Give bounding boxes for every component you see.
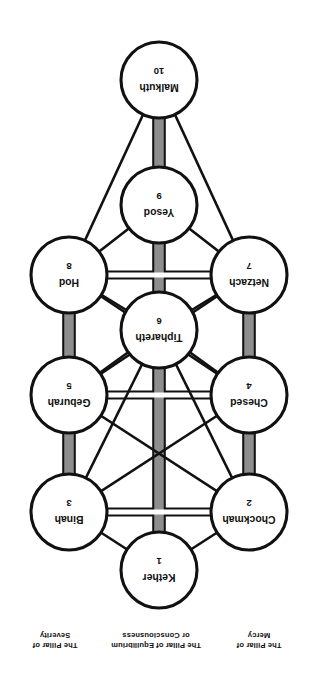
sephirah-chockmah-number: 2	[246, 498, 251, 509]
sephirah-yesod[interactable]: Yesod9	[121, 167, 197, 243]
sephirah-chesed-number: 4	[246, 381, 252, 392]
tree-of-life-figure: Kether1Chockmah2Binah3Chesed4Geburah5Tip…	[0, 0, 319, 674]
sephirah-yesod-name: Yesod	[144, 207, 175, 218]
sephirah-malkuth[interactable]: Malkuth10	[121, 42, 197, 118]
sephirah-netzach-name: Netzach	[229, 277, 269, 288]
sephirah-netzach-circle	[211, 237, 287, 313]
sephirah-kether-name: Kether	[143, 572, 176, 583]
sephirah-kether-number: 1	[156, 556, 162, 567]
sephirah-malkuth-number: 10	[154, 66, 165, 77]
sephirah-chockmah-name: Chockmah	[222, 514, 275, 525]
sephirah-chesed[interactable]: Chesed4	[211, 357, 287, 433]
sephirah-geburah-number: 5	[66, 381, 72, 392]
sephirah-tiphareth-number: 6	[156, 316, 161, 327]
sephirah-binah-number: 3	[66, 498, 71, 509]
sephirah-kether-circle	[121, 532, 197, 608]
sephirah-hod-name: Hod	[59, 277, 79, 288]
sephirah-hod[interactable]: Hod8	[31, 237, 107, 313]
sephirah-chesed-circle	[211, 357, 287, 433]
sephirah-chockmah-circle	[211, 474, 287, 550]
sephirah-netzach-number: 7	[246, 261, 251, 272]
sephirah-kether[interactable]: Kether1	[121, 532, 197, 608]
sephirah-hod-number: 8	[66, 261, 72, 272]
sephirah-geburah-circle	[31, 357, 107, 433]
tree-of-life-diagram: Kether1Chockmah2Binah3Chesed4Geburah5Tip…	[0, 0, 319, 674]
sephirah-chesed-name: Chesed	[230, 397, 268, 408]
sephirah-hod-circle	[31, 237, 107, 313]
sephirah-malkuth-circle	[121, 42, 197, 118]
sephirah-geburah-name: Geburah	[48, 397, 91, 408]
sephirah-yesod-number: 9	[156, 191, 161, 202]
sephirah-tiphareth-name: Tiphareth	[135, 332, 182, 343]
diagram-rotation-wrapper: Kether1Chockmah2Binah3Chesed4Geburah5Tip…	[0, 0, 319, 674]
sephirah-yesod-circle	[121, 167, 197, 243]
sephirah-tiphareth-circle	[121, 292, 197, 368]
sephirah-binah-circle	[31, 474, 107, 550]
sephirah-malkuth-name: Malkuth	[139, 82, 178, 93]
sephirah-chockmah[interactable]: Chockmah2	[211, 474, 287, 550]
sephirah-geburah[interactable]: Geburah5	[31, 357, 107, 433]
sephirah-tiphareth[interactable]: Tiphareth6	[121, 292, 197, 368]
sephirah-netzach[interactable]: Netzach7	[211, 237, 287, 313]
sephirah-binah[interactable]: Binah3	[31, 474, 107, 550]
sephirah-binah-name: Binah	[55, 514, 84, 525]
